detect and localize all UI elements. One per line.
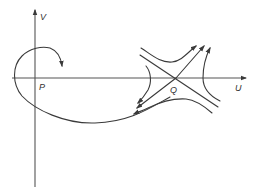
phase-plane-diagram: V U P Q xyxy=(0,0,258,196)
trajectory-top-hyperbola xyxy=(141,46,196,62)
trajectory-right-hyperbola xyxy=(203,48,220,101)
point-p-label: P xyxy=(39,82,45,92)
trajectory-left-hyperbola xyxy=(138,66,150,103)
u-axis-label: U xyxy=(235,83,242,93)
point-q-label: Q xyxy=(170,85,177,95)
v-axis-label: V xyxy=(40,12,47,22)
trajectory-loop xyxy=(15,47,171,123)
